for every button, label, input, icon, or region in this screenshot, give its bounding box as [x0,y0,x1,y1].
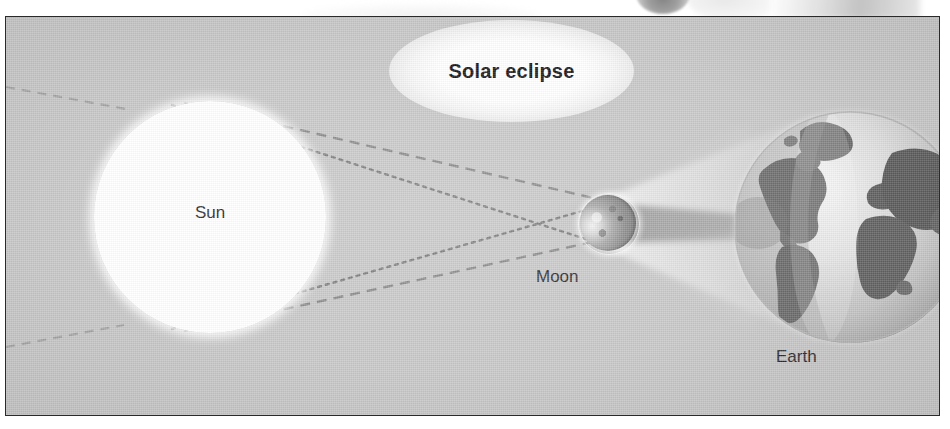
earth-body [734,111,940,343]
diagram-title: Solar eclipse [449,60,575,83]
cropped-sphere-icon [636,0,690,14]
sun-label: Sun [94,203,326,223]
ray-stub-top-left [6,87,126,109]
page-canvas: Sun Moon [0,0,950,429]
cropped-gradient-band [770,0,920,17]
earth-continents [734,111,940,343]
cropped-white-blob [688,0,780,17]
moon-body [580,195,636,251]
earth-limb-highlight [790,111,858,343]
page-top-margin [0,0,950,17]
diagram-frame: Sun Moon [5,16,940,416]
earth-label: Earth [776,347,817,367]
earth-group [734,111,940,343]
moon-label: Moon [536,267,579,287]
ray-stub-bottom-left [6,325,124,347]
title-glow-ellipse: Solar eclipse [389,20,634,122]
